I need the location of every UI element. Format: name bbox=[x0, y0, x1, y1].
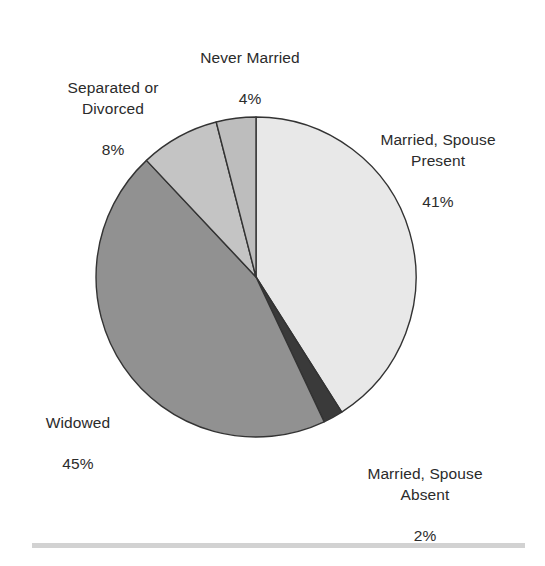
pie-label-widowed: Widowed 45% bbox=[8, 393, 148, 495]
pie-label-widowed-text: Widowed bbox=[8, 413, 148, 433]
pie-label-widowed-value: 45% bbox=[8, 454, 148, 474]
pie-label-married-spouse-present-value: 41% bbox=[338, 192, 538, 212]
pie-label-separated-or-divorced: Separated or Divorced 8% bbox=[28, 58, 198, 181]
pie-label-separated-or-divorced-value: 8% bbox=[28, 140, 198, 160]
pie-label-married-spouse-present: Married, Spouse Present 41% bbox=[338, 110, 538, 233]
bottom-divider-rule bbox=[32, 543, 525, 548]
pie-chart-figure: Never Married 4% Separated or Divorced 8… bbox=[0, 0, 545, 566]
pie-label-married-spouse-present-text: Married, Spouse Present bbox=[338, 130, 538, 171]
pie-label-separated-or-divorced-text: Separated or Divorced bbox=[28, 78, 198, 119]
pie-label-married-spouse-absent-text: Married, Spouse Absent bbox=[325, 464, 525, 505]
